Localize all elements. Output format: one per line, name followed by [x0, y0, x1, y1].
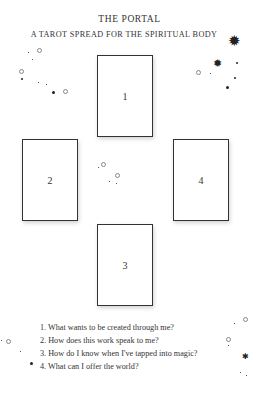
sparkle-dot-icon [30, 362, 33, 365]
sparkle-dot-icon [226, 86, 229, 89]
sparkle-ring-icon [19, 69, 24, 74]
question-item: 2. How does this work speak to me? [40, 334, 197, 347]
sparkle-dot-icon [116, 183, 117, 184]
sparkle-dot-icon [210, 73, 211, 74]
sparkle-dot-icon [240, 372, 241, 373]
sparkle-dot-icon [20, 351, 21, 352]
question-item: 1. What wants to be created through me? [40, 321, 197, 334]
question-item: 4. What can I offer the world? [40, 360, 197, 373]
sparkle-dot-icon [38, 82, 39, 83]
sparkle-ring-icon [226, 337, 231, 342]
card-number: 2 [48, 175, 53, 186]
sparkle-ring-icon [101, 162, 106, 167]
sparkle-ring-icon [63, 89, 68, 94]
small-star-icon: ✱ [242, 353, 249, 361]
tarot-card-4: 4 [173, 139, 229, 221]
sparkle-dot-icon [46, 84, 47, 85]
sparkle-dot-icon [32, 59, 33, 60]
page-title: THE PORTAL [0, 14, 259, 24]
question-list: 1. What wants to be created through me? … [40, 321, 197, 373]
question-item: 3. How do I know when I've tapped into m… [40, 347, 197, 360]
sparkle-ring-icon [196, 70, 201, 75]
tarot-card-1: 1 [97, 55, 153, 137]
card-number: 4 [199, 175, 204, 186]
sparkle-dot-icon [234, 77, 236, 79]
card-number: 1 [123, 91, 128, 102]
sparkle-ring-icon [115, 173, 120, 178]
sparkle-dot-icon [236, 62, 238, 64]
sparkle-ring-icon [37, 48, 42, 53]
sun-star-icon: ✹ [213, 58, 222, 69]
sparkle-ring-icon [243, 317, 248, 322]
sparkle-dot-icon [98, 167, 99, 168]
sparkle-dot-icon [109, 181, 110, 182]
tarot-card-2: 2 [22, 139, 78, 221]
tarot-card-3: 3 [97, 224, 153, 306]
sun-star-icon: ✹ [228, 34, 241, 49]
sparkle-dot-icon [246, 375, 247, 376]
card-number: 3 [123, 260, 128, 271]
sparkle-dot-icon [28, 52, 29, 53]
sparkle-ring-icon [6, 339, 11, 344]
sparkle-dot-icon [21, 78, 23, 80]
sparkle-dot-icon [1, 340, 2, 341]
sparkle-dot-icon [52, 91, 55, 94]
page-subtitle: A TAROT SPREAD FOR THE SPIRITUAL BODY [0, 30, 248, 39]
sparkle-dot-icon [228, 345, 229, 346]
sparkle-dot-icon [234, 323, 235, 324]
